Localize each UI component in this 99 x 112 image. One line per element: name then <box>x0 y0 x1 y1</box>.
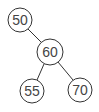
node-label: 60 <box>42 44 58 60</box>
binary-tree-diagram: 50 60 55 70 <box>0 0 99 112</box>
node-label: 50 <box>12 12 28 28</box>
tree-node-55: 55 <box>20 79 44 103</box>
tree-node-70: 70 <box>68 78 92 102</box>
tree-node-60: 60 <box>37 39 63 65</box>
edge-50-60 <box>28 29 41 42</box>
tree-node-50: 50 <box>8 8 32 32</box>
edge-60-55 <box>37 64 44 80</box>
edge-60-70 <box>58 62 73 80</box>
node-label: 55 <box>24 83 40 99</box>
node-label: 70 <box>72 82 88 98</box>
